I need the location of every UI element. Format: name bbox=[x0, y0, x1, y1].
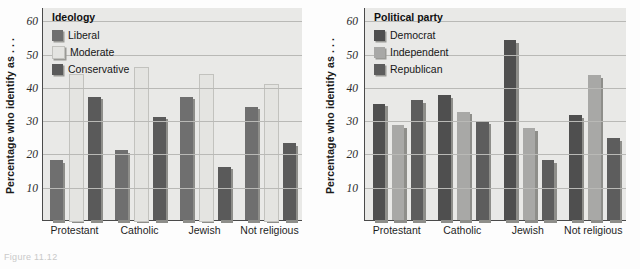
y-tick-label-50: 50 bbox=[347, 49, 359, 61]
x-axis-label-protestant: Protestant bbox=[51, 224, 99, 236]
legend-ideology: Ideology LiberalModerateConservative bbox=[52, 12, 129, 79]
y-tick-label-30: 30 bbox=[27, 115, 39, 127]
bar-face bbox=[588, 75, 601, 220]
legend-swatch-democrat bbox=[374, 30, 385, 41]
bar-face bbox=[607, 138, 620, 220]
bar-face bbox=[392, 125, 405, 220]
legend-swatch-republican bbox=[374, 64, 385, 75]
bar bbox=[542, 160, 555, 220]
x-axis-category-labels-right: ProtestantCatholicJewishNot religious bbox=[364, 224, 626, 242]
x-axis-label-jewish: Jewish bbox=[188, 224, 220, 236]
gridline-40 bbox=[365, 88, 626, 89]
gridline-30 bbox=[365, 121, 626, 122]
y-tick-label-40: 40 bbox=[347, 82, 359, 94]
bar-face bbox=[542, 160, 555, 220]
bar bbox=[218, 167, 231, 220]
bar bbox=[245, 107, 258, 220]
bar-face bbox=[180, 97, 193, 220]
bar-face bbox=[134, 67, 149, 222]
gridline-20 bbox=[43, 154, 302, 155]
bar-face bbox=[153, 117, 166, 220]
x-axis-label-jewish: Jewish bbox=[512, 224, 544, 236]
legend-item-independent: Independent bbox=[374, 45, 448, 60]
legend-political-party: Political party DemocratIndependentRepub… bbox=[374, 12, 448, 79]
bar bbox=[115, 150, 128, 220]
bar-face bbox=[411, 100, 424, 220]
x-axis-category-labels-left: ProtestantCatholicJewishNot religious bbox=[42, 224, 302, 242]
bar bbox=[134, 67, 147, 220]
bar bbox=[476, 122, 489, 220]
bar-face bbox=[438, 95, 451, 220]
bar-face bbox=[504, 40, 517, 220]
chart-panel-ideology: Percentage who identify as . . . 1020304… bbox=[0, 0, 320, 269]
bar-face bbox=[523, 128, 536, 220]
x-axis-label-protestant: Protestant bbox=[373, 224, 421, 236]
gridline-30 bbox=[43, 121, 302, 122]
legend-label-republican: Republican bbox=[390, 64, 443, 75]
gridline-20 bbox=[365, 154, 626, 155]
legend-swatch-liberal bbox=[52, 30, 63, 41]
y-tick-label-20: 20 bbox=[27, 148, 39, 160]
y-axis-title-right-text: Percentage who identify as . . . bbox=[324, 38, 336, 194]
bar bbox=[607, 138, 620, 220]
bar-face bbox=[457, 112, 470, 220]
bar bbox=[264, 84, 277, 220]
legend-item-liberal: Liberal bbox=[52, 28, 129, 43]
figure-caption-fragment: Figure 11.12 bbox=[4, 252, 57, 262]
legend-swatch-moderate bbox=[52, 46, 65, 59]
y-tick-label-10: 10 bbox=[347, 182, 359, 194]
gridline-10 bbox=[43, 188, 302, 189]
y-tick-label-30: 30 bbox=[347, 115, 359, 127]
y-tick-label-50: 50 bbox=[27, 49, 39, 61]
bar bbox=[411, 100, 424, 220]
bar bbox=[523, 128, 536, 220]
legend-label-independent: Independent bbox=[390, 47, 448, 58]
legend-label-moderate: Moderate bbox=[70, 47, 114, 58]
bar bbox=[50, 160, 63, 220]
legend-title-ideology: Ideology bbox=[52, 12, 129, 23]
bar-face bbox=[569, 115, 582, 220]
bar-face bbox=[69, 74, 84, 222]
gridline-40 bbox=[43, 88, 302, 89]
legend-item-republican: Republican bbox=[374, 62, 448, 77]
y-axis-tick-labels-left: 102030405060 bbox=[16, 8, 40, 221]
x-axis-label-not-religious: Not religious bbox=[564, 224, 622, 236]
bar bbox=[438, 95, 451, 220]
bar bbox=[69, 74, 82, 220]
bar bbox=[392, 125, 405, 220]
bar bbox=[504, 40, 517, 220]
x-axis-label-not-religious: Not religious bbox=[240, 224, 298, 236]
y-tick-label-40: 40 bbox=[27, 82, 39, 94]
x-axis-label-catholic: Catholic bbox=[443, 224, 481, 236]
bar bbox=[569, 115, 582, 220]
bar-face bbox=[218, 167, 231, 220]
legend-label-democrat: Democrat bbox=[390, 30, 436, 41]
bar bbox=[588, 75, 601, 220]
bar bbox=[88, 97, 101, 220]
bar-face bbox=[199, 74, 214, 222]
y-axis-tick-labels-right: 102030405060 bbox=[336, 8, 360, 221]
bar-face bbox=[50, 160, 63, 220]
legend-swatch-independent bbox=[374, 47, 385, 58]
y-tick-label-10: 10 bbox=[27, 182, 39, 194]
gridline-10 bbox=[365, 188, 626, 189]
bar-face bbox=[476, 122, 489, 220]
bar-face bbox=[115, 150, 128, 220]
legend-title-political-party: Political party bbox=[374, 12, 448, 23]
x-axis-label-catholic: Catholic bbox=[121, 224, 159, 236]
y-tick-label-60: 60 bbox=[27, 15, 39, 27]
legend-item-conservative: Conservative bbox=[52, 62, 129, 77]
y-axis-title-left-text: Percentage who identify as . . . bbox=[4, 38, 16, 194]
legend-item-moderate: Moderate bbox=[52, 45, 129, 60]
bar bbox=[180, 97, 193, 220]
chart-panel-political-party: Percentage who identify as . . . 1020304… bbox=[320, 0, 640, 269]
legend-label-conservative: Conservative bbox=[68, 64, 129, 75]
y-tick-label-60: 60 bbox=[347, 15, 359, 27]
legend-swatch-conservative bbox=[52, 64, 63, 75]
bar-face bbox=[245, 107, 258, 220]
bar-face bbox=[264, 84, 279, 222]
legend-label-liberal: Liberal bbox=[68, 30, 100, 41]
bar bbox=[457, 112, 470, 220]
y-tick-label-20: 20 bbox=[347, 148, 359, 160]
bar bbox=[199, 74, 212, 220]
